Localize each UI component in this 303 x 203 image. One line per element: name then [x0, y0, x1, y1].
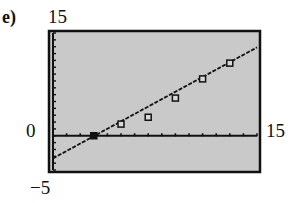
- data-point: [200, 76, 206, 82]
- plot-frame: [49, 31, 260, 172]
- data-point: [91, 133, 97, 139]
- data-point: [118, 121, 124, 127]
- calculator-graph-screen: [0, 0, 303, 203]
- data-point: [227, 60, 233, 66]
- data-point: [145, 114, 151, 120]
- data-point: [172, 95, 178, 101]
